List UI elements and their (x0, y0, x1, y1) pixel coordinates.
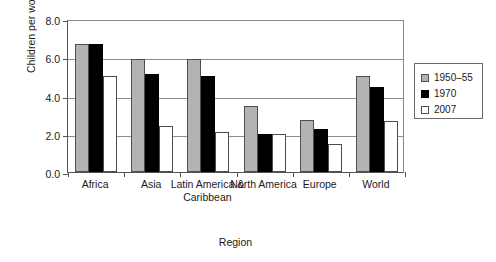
bar (328, 144, 342, 172)
legend-entry: 1970 (421, 86, 482, 101)
x-tick-mark (349, 172, 350, 177)
bar (272, 134, 286, 172)
y-tick-label: 6.0 (22, 54, 60, 64)
y-tick-mark (63, 21, 68, 22)
gridline (68, 98, 403, 99)
bar (201, 76, 215, 172)
bar (314, 129, 328, 172)
legend-swatch-icon (421, 90, 429, 98)
bar (244, 106, 258, 172)
y-tick-label: 4.0 (22, 93, 60, 103)
bar-group (356, 21, 398, 172)
chart-legend: 1950–5519702007 (414, 63, 483, 119)
x-tick-mark (180, 172, 181, 177)
legend-label: 1970 (434, 89, 456, 99)
bar (187, 59, 201, 172)
bar (300, 120, 314, 172)
bar (356, 76, 370, 172)
legend-entry: 2007 (421, 102, 482, 117)
x-tick-mark (293, 172, 294, 177)
bar-group (244, 21, 286, 172)
bar-chart-figure: Children per woman 0.02.04.06.08.0 Afric… (0, 0, 496, 262)
bar (103, 76, 117, 172)
y-tick-mark (63, 59, 68, 60)
legend-swatch-icon (421, 74, 429, 82)
legend-label: 1950–55 (434, 73, 473, 83)
x-tick-mark (237, 172, 238, 177)
bar (370, 87, 384, 172)
x-axis-title: Region (67, 236, 404, 248)
bar (384, 121, 398, 172)
bar (75, 44, 89, 172)
y-tick-mark (63, 136, 68, 137)
legend-swatch-icon (421, 106, 429, 114)
bar-group (187, 21, 229, 172)
legend-entry: 1950–55 (421, 70, 482, 85)
y-tick-mark (63, 98, 68, 99)
bar-group (300, 21, 342, 172)
bar (89, 44, 103, 172)
x-category-label: World (333, 178, 419, 191)
gridline (68, 59, 403, 60)
y-tick-label: 2.0 (22, 131, 60, 141)
bar (258, 134, 272, 172)
x-tick-mark (405, 172, 406, 177)
plot-area: 0.02.04.06.08.0 (67, 20, 404, 173)
bar (131, 59, 145, 172)
bar (145, 74, 159, 172)
y-tick-label: 8.0 (22, 16, 60, 26)
x-tick-mark (124, 172, 125, 177)
bar-group (75, 21, 117, 172)
bar (159, 126, 173, 172)
bar (215, 132, 229, 172)
legend-label: 2007 (434, 105, 456, 115)
bar-group (131, 21, 173, 172)
gridline (68, 136, 403, 137)
x-tick-mark (68, 172, 69, 177)
